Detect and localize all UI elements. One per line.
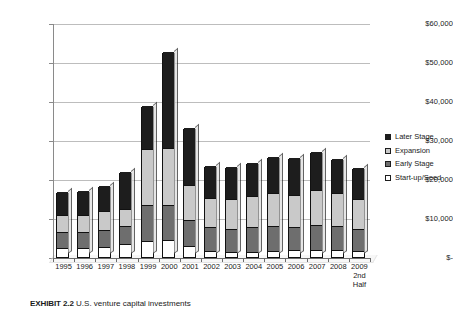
bar-segment-later[interactable] [289, 158, 300, 195]
bar-segment-early[interactable] [184, 220, 195, 246]
bar-segment-expansion[interactable] [205, 198, 216, 228]
legend: Later Stage Expansion Early Stage Start-… [385, 131, 441, 185]
bar-segment-later[interactable] [332, 159, 343, 193]
bar-segment-later[interactable] [184, 128, 195, 186]
bar-segment-expansion[interactable] [99, 211, 110, 230]
bar-segment-seed[interactable] [226, 252, 237, 257]
stacked-bar[interactable] [246, 164, 259, 258]
stacked-bar[interactable] [267, 158, 280, 258]
bar-segment-expansion[interactable] [268, 193, 279, 225]
bar-segment-expansion[interactable] [247, 196, 258, 228]
bar-segment-early[interactable] [57, 232, 68, 248]
y-tick-label: $40,000 [405, 98, 453, 106]
bar-segment-early[interactable] [78, 232, 89, 248]
bar-segment-early[interactable] [120, 226, 131, 244]
x-tick-stub [222, 258, 223, 262]
bar-segment-early[interactable] [268, 226, 279, 251]
bar-segment-expansion[interactable] [120, 209, 131, 226]
legend-item-label: Later Stage [395, 133, 434, 141]
bar-segment-early[interactable] [332, 226, 343, 251]
bar-segment-expansion[interactable] [142, 149, 153, 205]
legend-item-early-stage[interactable]: Early Stage [385, 158, 441, 170]
bar-segment-later[interactable] [142, 106, 153, 149]
bar-segment-expansion[interactable] [289, 195, 300, 227]
bar-segment-later[interactable] [99, 186, 110, 211]
bar-segment-early[interactable] [142, 205, 153, 241]
legend-item-startup-seed[interactable]: Start-up/Seed [385, 172, 441, 184]
bar-segment-later[interactable] [268, 157, 279, 193]
bar-segment-early[interactable] [99, 230, 110, 247]
stacked-bar[interactable] [331, 160, 344, 258]
bar-segment-later[interactable] [353, 168, 364, 199]
stacked-bar[interactable] [352, 169, 365, 258]
bar-segment-seed[interactable] [353, 251, 364, 257]
x-tick-stub [370, 258, 371, 262]
bar-segment-early[interactable] [163, 205, 174, 240]
bar-segment-expansion[interactable] [311, 190, 322, 225]
bar-segment-expansion[interactable] [353, 199, 364, 229]
bar-segment-seed[interactable] [205, 251, 216, 257]
bar-segment-expansion[interactable] [226, 199, 237, 228]
bar-segment-early[interactable] [247, 227, 258, 251]
stacked-bar[interactable] [288, 159, 301, 258]
bar-segment-early[interactable] [226, 229, 237, 252]
exhibit-caption: EXHIBIT 2.2 U.S. venture capital investm… [30, 299, 430, 309]
bar-segment-later[interactable] [311, 152, 322, 189]
y-tick-label: $10,000 [405, 215, 453, 223]
stacked-bar[interactable] [141, 107, 154, 258]
bar-segment-expansion[interactable] [184, 185, 195, 220]
legend-item-later-stage[interactable]: Later Stage [385, 131, 441, 143]
bar-segment-seed[interactable] [184, 246, 195, 257]
bar-segment-later[interactable] [205, 166, 216, 198]
bar-segment-seed[interactable] [57, 248, 68, 257]
bar-segment-early[interactable] [205, 227, 216, 251]
bar-segment-early[interactable] [311, 225, 322, 250]
stacked-bar[interactable] [204, 167, 217, 258]
bar-segment-seed[interactable] [268, 251, 279, 257]
x-tick-stub [328, 258, 329, 262]
x-tick-stub [180, 258, 181, 262]
bar-segment-early[interactable] [353, 229, 364, 251]
bar-segment-later[interactable] [163, 52, 174, 148]
bar-segment-seed[interactable] [289, 250, 300, 257]
stacked-bar[interactable] [119, 173, 132, 258]
bar-segment-seed[interactable] [78, 248, 89, 257]
legend-item-label: Early Stage [395, 160, 434, 168]
stacked-bar[interactable] [183, 129, 196, 258]
bar-segment-seed[interactable] [247, 252, 258, 257]
x-axis-line [53, 258, 371, 259]
stacked-bar[interactable] [310, 153, 323, 258]
bar-segment-later[interactable] [120, 172, 131, 209]
stacked-bar[interactable] [77, 192, 90, 258]
legend-item-expansion[interactable]: Expansion [385, 145, 441, 157]
bar-segment-later[interactable] [247, 163, 258, 196]
stacked-bar[interactable] [162, 53, 175, 258]
stacked-bar[interactable] [56, 193, 69, 258]
x-tick-stub [264, 258, 265, 262]
legend-item-label: Start-up/Seed [395, 174, 441, 182]
y-tick-label: $- [405, 254, 453, 262]
bar-segment-expansion[interactable] [57, 215, 68, 232]
x-tick-stub [307, 258, 308, 262]
x-tick-stub [243, 258, 244, 262]
bar-segment-seed[interactable] [99, 247, 110, 257]
stacked-bar[interactable] [225, 168, 238, 258]
bar-segment-seed[interactable] [332, 250, 343, 257]
bar-segment-expansion[interactable] [163, 148, 174, 205]
bar-segment-expansion[interactable] [332, 193, 343, 226]
black-square-icon [385, 134, 391, 140]
bar-segment-later[interactable] [57, 192, 68, 215]
bar-segment-seed[interactable] [120, 244, 131, 257]
bar-segment-later[interactable] [78, 191, 89, 215]
exhibit-caption-text: U.S. venture capital investments [76, 299, 191, 308]
bar-segment-later[interactable] [226, 167, 237, 199]
bar-segment-seed[interactable] [142, 241, 153, 257]
x-tick-stub [116, 258, 117, 262]
x-tick-stub [74, 258, 75, 262]
bar-segment-expansion[interactable] [78, 215, 89, 232]
bar-segment-seed[interactable] [311, 250, 322, 257]
x-tick-stub [159, 258, 160, 262]
bar-segment-early[interactable] [289, 227, 300, 250]
stacked-bar[interactable] [98, 187, 111, 258]
bar-segment-seed[interactable] [163, 240, 174, 257]
